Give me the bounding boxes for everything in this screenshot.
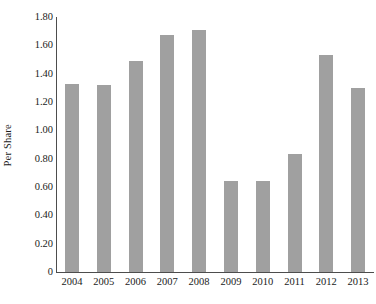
y-axis-tick-label: 1.20 [1, 97, 53, 108]
bar [319, 55, 333, 272]
y-axis-tick-label: 0.40 [1, 210, 53, 221]
bar [97, 85, 111, 272]
bar [192, 30, 206, 272]
y-axis-tick-label: 1.60 [1, 40, 53, 51]
y-axis-tick-label: 1.00 [1, 125, 53, 136]
x-axis-tick-label: 2013 [338, 275, 376, 290]
bar [288, 154, 302, 272]
y-axis-tick-label: 0.80 [1, 153, 53, 164]
y-axis-tick-label: 0 [1, 267, 53, 278]
x-axis-line [56, 272, 374, 273]
bar [224, 181, 238, 272]
x-axis-tick-labels: 2004200520062007200820092010201120122013 [56, 275, 374, 293]
y-axis-tick-label: 1.40 [1, 68, 53, 79]
bar [129, 61, 143, 272]
y-axis-tick-labels: 1.801.601.401.201.000.800.600.400.200 [0, 0, 53, 304]
bar [351, 88, 365, 272]
y-axis-tick-label: 0.60 [1, 182, 53, 193]
y-axis-tick-label: 0.20 [1, 238, 53, 249]
bar-series [56, 17, 374, 272]
bar-chart-figure: Per Share 1.801.601.401.201.000.800.600.… [0, 0, 376, 304]
bar [160, 35, 174, 272]
y-axis-tick-label: 1.80 [1, 12, 53, 23]
bar [65, 84, 79, 272]
bar [256, 181, 270, 272]
